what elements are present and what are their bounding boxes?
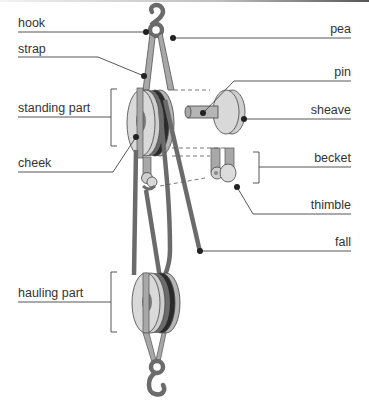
- label-sheave: sheave: [311, 103, 351, 117]
- label-hauling-part: hauling part: [18, 286, 83, 300]
- lower-hook-icon: [149, 361, 164, 394]
- label-cheek: cheek: [18, 156, 51, 170]
- upper-strap: [143, 33, 174, 90]
- lower-block: [132, 273, 180, 362]
- label-standing-part: standing part: [18, 101, 90, 115]
- label-becket: becket: [314, 151, 351, 165]
- label-pea: pea: [330, 22, 351, 36]
- label-strap: strap: [18, 42, 46, 56]
- label-thimble: thimble: [311, 198, 351, 212]
- upper-hook-icon: [150, 5, 163, 36]
- label-pin: pin: [334, 65, 351, 79]
- upper-becket: [142, 157, 158, 189]
- exploded-becket: [211, 148, 236, 182]
- label-fall: fall: [335, 235, 351, 249]
- exploded-sheave: [185, 90, 245, 134]
- upper-block: [127, 88, 174, 158]
- label-hook: hook: [18, 16, 45, 30]
